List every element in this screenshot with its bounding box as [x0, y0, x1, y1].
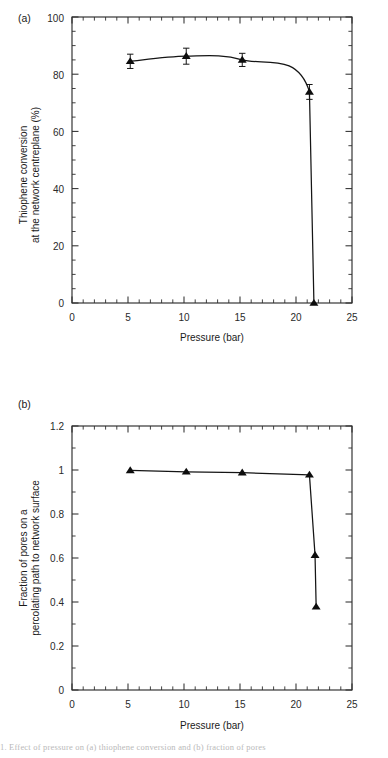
panel-b-data — [126, 466, 321, 609]
x-tick-label: 20 — [290, 312, 302, 323]
x-tick-label: 25 — [346, 699, 358, 710]
panel-a-data — [126, 48, 319, 306]
data-point-marker — [305, 88, 314, 95]
y-tick-label: 0 — [58, 298, 64, 309]
x-tick-label: 10 — [178, 699, 190, 710]
y-tick-label: 40 — [53, 184, 65, 195]
figure-container: (a) Thiophene conversion at the network … — [0, 0, 388, 758]
panel-b-svg: (b) Fraction of pores on a percolating p… — [0, 380, 388, 740]
panel-b-plot-frame — [72, 426, 352, 690]
y-tick-label: 100 — [47, 13, 64, 24]
y-tick-label: 0.6 — [50, 553, 64, 564]
panel-b-y-tick-labels: 0 0.2 0.4 0.6 0.8 1 1.2 — [50, 421, 64, 696]
panel-a-svg: (a) Thiophene conversion at the network … — [0, 0, 388, 380]
data-point-marker — [312, 603, 321, 610]
panel-a-plot-frame — [72, 17, 352, 303]
panel-b-ylabel-line2: percolating path to network surface — [30, 480, 41, 636]
x-tick-label: 0 — [69, 699, 75, 710]
panel-a-ylabel-line2: at the network centreplane (%) — [30, 107, 41, 243]
x-tick-label: 5 — [125, 312, 131, 323]
y-tick-label: 0.2 — [50, 641, 64, 652]
data-point-marker — [126, 466, 135, 473]
panel-a-ylabel-line1: Thiophene conversion — [18, 126, 29, 224]
y-tick-label: 0 — [58, 685, 64, 696]
panel-b-label: (b) — [18, 398, 31, 410]
x-tick-label: 5 — [125, 699, 131, 710]
panel-b: (b) Fraction of pores on a percolating p… — [0, 380, 388, 740]
x-tick-label: 15 — [234, 699, 246, 710]
data-point-marker — [309, 299, 318, 306]
panel-b-tickmarks — [72, 426, 352, 690]
y-tick-label: 1.2 — [50, 421, 64, 432]
panel-a-xlabel: Pressure (bar) — [180, 332, 244, 343]
y-tick-label: 1 — [58, 465, 64, 476]
y-tick-label: 0.8 — [50, 509, 64, 520]
x-tick-label: 20 — [290, 699, 302, 710]
data-line — [130, 56, 314, 303]
panel-a-tickmarks — [72, 17, 352, 303]
panel-a-x-tick-labels: 0 5 10 15 20 25 — [69, 312, 358, 323]
y-tick-label: 60 — [53, 127, 65, 138]
data-line — [130, 470, 316, 606]
panel-b-ylabel-line1: Fraction of pores on a — [18, 509, 29, 607]
panel-a-y-tick-labels: 0 20 40 60 80 100 — [47, 13, 64, 309]
x-tick-label: 10 — [178, 312, 190, 323]
x-tick-label: 25 — [346, 312, 358, 323]
data-point-marker — [311, 551, 320, 558]
y-tick-label: 20 — [53, 241, 65, 252]
figure-caption-fragment: 1. Effect of pressure on (a) thiophene c… — [0, 742, 388, 752]
y-tick-label: 0.4 — [50, 597, 64, 608]
x-tick-label: 0 — [69, 312, 75, 323]
panel-a-label: (a) — [18, 12, 31, 24]
y-tick-label: 80 — [53, 70, 65, 81]
panel-b-x-tick-labels: 0 5 10 15 20 25 — [69, 699, 358, 710]
panel-b-xlabel: Pressure (bar) — [180, 720, 244, 731]
panel-a: (a) Thiophene conversion at the network … — [0, 0, 388, 380]
x-tick-label: 15 — [234, 312, 246, 323]
